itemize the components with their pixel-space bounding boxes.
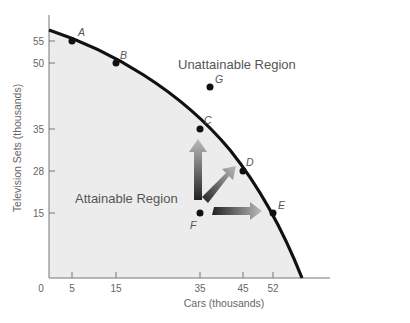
y-tick-label: 28 [33, 166, 45, 177]
x-tick-label: 45 [237, 283, 249, 294]
point-b [113, 60, 120, 67]
y-tick-label: 15 [33, 208, 45, 219]
y-tick-label: 55 [33, 36, 45, 47]
x-tick-label: 5 [69, 283, 75, 294]
x-tick-label: 15 [110, 283, 122, 294]
y-tick-label: 35 [33, 124, 45, 135]
point-label-c: C [204, 114, 212, 126]
point-label-b: B [120, 49, 127, 61]
point-d [240, 168, 247, 175]
point-label-e: E [278, 199, 286, 211]
y-tick-label: 50 [33, 58, 45, 69]
x-tick-label: 0 [38, 283, 44, 294]
point-label-a: A [77, 26, 85, 38]
x-tick-label: 35 [194, 283, 206, 294]
point-e [270, 210, 277, 217]
point-label-g: G [215, 73, 223, 85]
x-tick-label: 52 [267, 283, 279, 294]
point-g [207, 84, 214, 91]
point-a [69, 38, 76, 45]
point-label-d: D [246, 156, 254, 168]
point-f [197, 210, 204, 217]
ppf-chart: 55 50 35 28 15 0 5 15 35 45 52 Cars (tho… [0, 0, 410, 323]
point-label-f: F [190, 219, 197, 231]
point-c [197, 126, 204, 133]
attainable-region-label: Attainable Region [75, 191, 178, 206]
unattainable-region-label: Unattainable Region [178, 57, 296, 72]
x-axis-title: Cars (thousands) [184, 297, 265, 309]
y-axis-title: Television Sets (thousands) [11, 84, 23, 212]
